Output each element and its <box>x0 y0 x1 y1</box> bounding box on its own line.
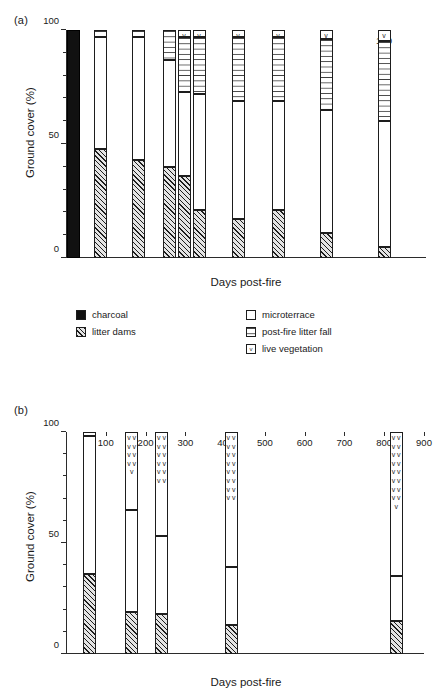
segment-litter-dams <box>83 574 96 654</box>
x-tick <box>265 432 266 436</box>
vegetation-glyphs: v v v v v v v v v <box>126 433 137 477</box>
segment-post-fire-litter-fall <box>193 37 206 94</box>
panel-a-tag: (a) <box>14 14 28 26</box>
segment-post-fire-litter-fall <box>320 39 333 110</box>
vegetation-glyphs: v <box>273 31 284 37</box>
x-tick-label: 200 <box>138 438 154 448</box>
y-minor-tick <box>63 631 66 632</box>
vegetation-glyphs: v v v v v v v v v v v v <box>156 433 167 486</box>
segment-microterrace <box>83 436 96 574</box>
x-tick <box>384 432 385 436</box>
bar: v <box>378 30 391 258</box>
segment-microterrace <box>378 121 391 246</box>
panel-b-x-axis-title: Days post-fire <box>211 676 282 688</box>
legend-swatch-charcoal-icon <box>76 310 86 320</box>
legend: charcoallitter dams microterracepost-fir… <box>0 306 436 378</box>
vegetation-glyphs: v <box>179 31 190 37</box>
segment-litter-dams <box>390 621 403 654</box>
segment-litter-dams <box>378 247 391 258</box>
segment-microterrace <box>320 110 333 233</box>
segment-post-fire-litter-fall <box>272 37 285 101</box>
y-tick <box>61 542 66 543</box>
y-minor-tick <box>63 520 66 521</box>
segment-live-vegetation: v <box>193 30 206 37</box>
vegetation-glyphs: v <box>194 31 205 37</box>
x-tick <box>344 432 345 436</box>
segment-microterrace <box>163 60 176 167</box>
legend-label: charcoal <box>92 309 128 320</box>
panel-a: (a) Ground cover (%) 050100 114263235395… <box>0 0 436 300</box>
y-minor-tick <box>63 498 66 499</box>
y-tick-label: 100 <box>43 418 59 428</box>
vegetation-glyphs: v <box>379 31 390 41</box>
vegetation-glyphs: v v v v v v v v v v v v v v v v v <box>391 433 402 511</box>
y-tick <box>61 653 66 654</box>
y-tick-label: 100 <box>43 16 59 26</box>
y-minor-tick <box>63 586 66 587</box>
legend-swatch-litter-fall-icon <box>246 327 256 337</box>
bar: v v v v v v v v v v v v v v v v v <box>390 432 403 654</box>
segment-microterrace <box>132 37 145 160</box>
segment-microterrace <box>390 576 403 620</box>
segment-post-fire-litter-fall <box>132 30 145 37</box>
bar: v v v v v v v v v v v v v v v v <box>225 432 238 654</box>
x-tick <box>185 432 186 436</box>
segment-litter-dams <box>132 160 145 258</box>
segment-microterrace <box>193 94 206 210</box>
bar: v <box>178 30 191 258</box>
x-tick-label: 100 <box>98 438 114 448</box>
y-tick-label: 50 <box>48 529 59 539</box>
segment-post-fire-litter-fall <box>178 37 191 92</box>
y-tick-label: 0 <box>54 244 59 254</box>
y-minor-tick <box>63 453 66 454</box>
y-tick <box>61 431 66 432</box>
segment-microterrace <box>272 101 285 210</box>
segment-litter-dams <box>163 167 176 258</box>
y-tick <box>61 143 66 144</box>
panel-b-plot-area: 050100 100200300400500600700800900 v v v… <box>66 432 424 654</box>
bar: v <box>272 30 285 258</box>
segment-live-vegetation: v v v v v v v v v v v v v v v v v <box>390 432 403 576</box>
x-tick <box>305 432 306 436</box>
x-tick-label: 700 <box>337 438 353 448</box>
x-tick-label: 900 <box>416 438 432 448</box>
segment-microterrace <box>155 536 168 614</box>
legend-item-vegetation: vlive vegetation <box>246 340 332 357</box>
y-tick-label: 50 <box>48 130 59 140</box>
panel-b-x-axis <box>66 653 424 654</box>
segment-microterrace <box>178 92 191 176</box>
bar: v v v v v v v v v v v v <box>155 432 168 654</box>
legend-item-litter-dams: litter dams <box>76 323 136 340</box>
bar <box>83 432 96 654</box>
segment-litter-dams <box>232 219 245 258</box>
y-tick <box>61 29 66 30</box>
segment-litter-dams <box>320 233 333 258</box>
legend-item-microterrace: microterrace <box>246 306 332 323</box>
segment-post-fire-litter-fall <box>163 30 176 60</box>
panel-b-y-axis <box>66 432 67 654</box>
panel-b: (b) Ground cover (%) 050100 100200300400… <box>0 392 436 698</box>
legend-item-litter-fall: post-fire litter fall <box>246 323 332 340</box>
panel-b-tag: (b) <box>14 404 28 416</box>
legend-label: live vegetation <box>262 343 323 354</box>
y-minor-tick <box>63 564 66 565</box>
segment-live-vegetation: v <box>232 30 245 37</box>
segment-live-vegetation <box>83 432 96 436</box>
segment-live-vegetation: v <box>178 30 191 37</box>
panel-a-plot-area: 050100 11426323539516381100 vvvvvv <box>66 30 426 258</box>
y-tick-label: 0 <box>54 640 59 650</box>
segment-litter-dams <box>225 625 238 654</box>
x-tick-label: 300 <box>177 438 193 448</box>
vegetation-glyphs: v <box>321 31 332 39</box>
segment-microterrace <box>225 567 238 625</box>
figure-ground-cover-post-fire: (a) Ground cover (%) 050100 114263235395… <box>0 0 436 698</box>
panel-a-x-axis-title: Days post-fire <box>211 276 282 288</box>
legend-swatch-vegetation-icon: v <box>246 344 256 354</box>
bar <box>163 30 176 258</box>
segment-live-vegetation: v v v v v v v v v v v v v v v v <box>225 432 238 567</box>
segment-litter-dams <box>193 210 206 258</box>
segment-litter-dams <box>94 149 107 258</box>
panel-a-x-axis <box>66 257 426 258</box>
segment-microterrace <box>125 510 138 612</box>
segment-microterrace <box>232 101 245 220</box>
